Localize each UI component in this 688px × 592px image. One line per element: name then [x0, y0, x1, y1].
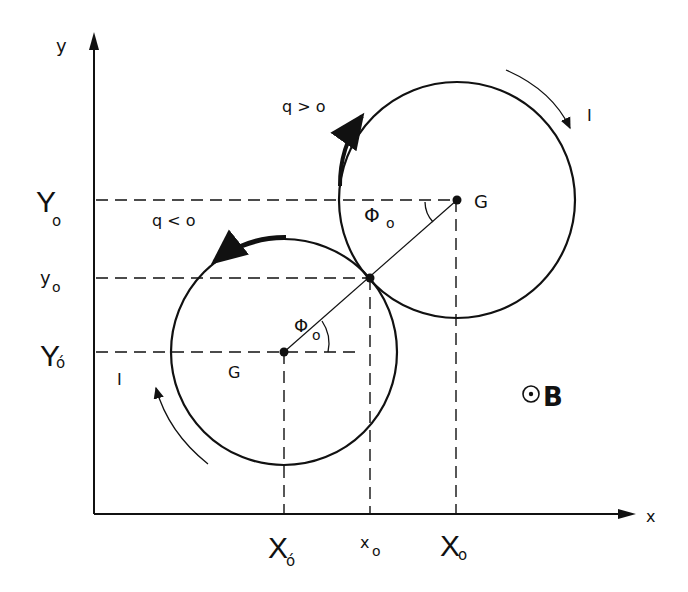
cyclotron-orbit-diagram: y x q > o q < o I I G G Φ o Φ o Y o — [0, 0, 688, 592]
magnetic-field-out-of-page: B — [523, 382, 563, 412]
y-axis — [89, 32, 99, 514]
angle-label-lower: Φ o — [294, 315, 321, 343]
angle-arc-lower — [322, 321, 329, 352]
svg-text:o: o — [52, 212, 61, 230]
svg-text:ó: ó — [56, 354, 65, 372]
svg-text:Φ: Φ — [364, 203, 380, 227]
svg-text:o: o — [386, 215, 395, 231]
svg-text:o: o — [52, 279, 61, 295]
guide-lines — [96, 200, 456, 514]
svg-text:y: y — [40, 267, 51, 288]
center-label-upper: G — [474, 191, 488, 212]
svg-text:o: o — [312, 327, 321, 343]
current-arrow-upper — [506, 70, 570, 128]
svg-text:ó: ó — [286, 552, 295, 570]
tick-Y0-prime: Y ó — [40, 339, 65, 372]
negative-charge-arrow — [214, 237, 286, 262]
positive-charge-arrow — [340, 116, 362, 186]
svg-text:o: o — [458, 546, 467, 564]
x-axis — [94, 509, 636, 519]
y-axis-label: y — [56, 35, 67, 56]
tick-y0: y o — [40, 267, 61, 295]
current-label-lower: I — [117, 370, 122, 389]
charge-label-negative: q < o — [152, 211, 196, 230]
tick-x0: x o — [360, 533, 381, 559]
svg-text:x: x — [360, 533, 369, 552]
svg-text:Φ: Φ — [294, 315, 308, 336]
charge-label-positive: q > o — [282, 97, 326, 116]
tangent-point — [366, 274, 375, 283]
svg-text:X: X — [440, 529, 460, 562]
svg-text:o: o — [372, 543, 381, 559]
current-label-upper: I — [587, 106, 592, 125]
lower-center-point — [280, 348, 289, 357]
upper-center-point — [453, 196, 462, 205]
svg-text:B: B — [543, 382, 563, 412]
x-axis-label: x — [646, 507, 655, 526]
angle-arc-upper — [425, 202, 433, 222]
tick-X0: X o — [440, 529, 467, 564]
center-label-lower: G — [228, 363, 240, 382]
tick-X0-prime: X ó — [268, 531, 295, 570]
tick-Y0: Y o — [36, 185, 61, 230]
angle-label-upper: Φ o — [364, 203, 395, 231]
svg-text:X: X — [268, 531, 288, 564]
